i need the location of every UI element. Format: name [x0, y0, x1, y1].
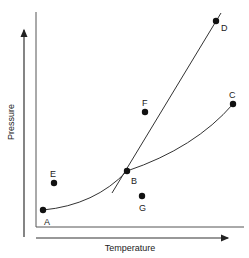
point-C: C — [229, 90, 236, 107]
point-label-F: F — [142, 98, 148, 108]
point-E: E — [50, 169, 57, 186]
point-G: G — [139, 193, 146, 213]
point-label-A: A — [44, 217, 50, 227]
point-D: D — [213, 18, 228, 33]
point-label-B: B — [131, 176, 137, 186]
y-axis-label: Pressure — [6, 104, 16, 140]
point-B: B — [124, 168, 137, 186]
fusion-line — [112, 13, 221, 193]
x-axis-label: Temperature — [105, 243, 156, 253]
point-F: F — [142, 98, 148, 115]
point-label-E: E — [50, 169, 56, 179]
phase-diagram: Pressure Temperature A B C D E F G — [0, 0, 249, 258]
point-label-D: D — [221, 23, 228, 33]
point-label-C: C — [229, 90, 236, 100]
point-label-G: G — [139, 203, 146, 213]
